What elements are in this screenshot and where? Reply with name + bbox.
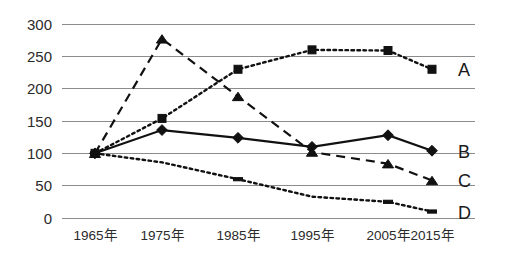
data-point-marker-triangle — [426, 176, 437, 184]
series-label-A: A — [458, 60, 470, 80]
series-label-D: D — [458, 203, 471, 223]
data-point-marker-dash — [384, 200, 393, 203]
chart-canvas: 050100150200250300 1965年1975年1985年1995年2… — [0, 0, 509, 260]
x-tick-label: 1975年 — [140, 228, 183, 243]
data-point-marker-square — [308, 46, 316, 54]
y-tick-label: 0 — [44, 210, 52, 227]
y-tick-label: 200 — [27, 80, 52, 97]
data-point-marker-diamond — [157, 125, 168, 136]
y-tick-label: 50 — [35, 177, 52, 194]
data-point-marker-triangle — [156, 35, 167, 43]
y-tick-label: 300 — [27, 16, 52, 33]
data-point-marker-square — [234, 65, 242, 73]
series-C — [89, 35, 437, 185]
x-tick-label: 2015年 — [410, 228, 453, 243]
x-axis-tick-labels: 1965年1975年1985年1995年2005年2015年 — [73, 228, 453, 243]
y-tick-label: 150 — [27, 113, 52, 130]
series-label-B: B — [458, 142, 470, 162]
data-series — [89, 35, 437, 213]
series-D — [91, 152, 433, 212]
series-label-C: C — [458, 171, 471, 191]
series-line-B — [95, 130, 432, 153]
y-tick-label: 250 — [27, 48, 52, 65]
data-point-marker-dash — [234, 178, 243, 181]
x-tick-label: 2005年 — [366, 228, 409, 243]
series-end-labels: ABCD — [458, 60, 471, 222]
data-point-marker-dash — [91, 152, 100, 155]
data-point-marker-square — [384, 47, 392, 55]
data-point-marker-diamond — [427, 145, 438, 156]
y-axis-tick-labels: 050100150200250300 — [27, 16, 52, 227]
series-line-A — [95, 50, 432, 153]
data-point-marker-diamond — [383, 130, 394, 141]
x-tick-label: 1985年 — [216, 228, 259, 243]
data-point-marker-triangle — [232, 92, 243, 100]
data-point-marker-square — [428, 65, 436, 73]
data-point-marker-diamond — [233, 132, 244, 143]
gridlines — [62, 24, 475, 218]
data-point-marker-dash — [428, 210, 437, 213]
x-tick-label: 1965年 — [73, 228, 116, 243]
line-chart: 050100150200250300 1965年1975年1985年1995年2… — [0, 0, 509, 260]
x-tick-label: 1995年 — [290, 228, 333, 243]
data-point-marker-square — [158, 114, 166, 122]
y-tick-label: 100 — [27, 145, 52, 162]
